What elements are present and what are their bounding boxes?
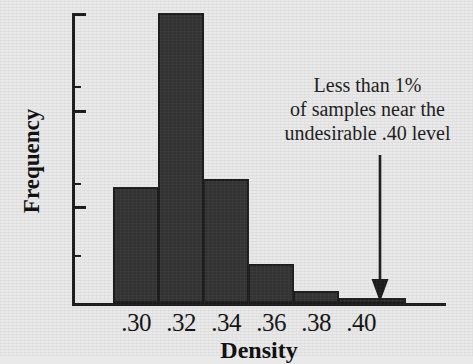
y-tick-minor-37: [75, 183, 81, 185]
y-tick-50: [75, 110, 86, 113]
x-axis-title: Density: [72, 337, 446, 364]
bar-bin-2: [158, 13, 204, 303]
bar-bin-4: [248, 264, 294, 303]
y-tick-minor-12: [75, 255, 81, 257]
annotation-line-1: Less than 1%: [262, 73, 473, 97]
y-axis-line: [72, 13, 75, 306]
y-tick-25: [75, 206, 86, 209]
y-tick-minor-62: [75, 86, 81, 88]
bar-bin-5: [293, 291, 339, 303]
annotation-line-3: undesirable .40 level: [262, 121, 473, 145]
y-tick-75: [75, 13, 86, 16]
bar-bin-1: [113, 187, 159, 303]
y-axis-title: Frequency: [19, 76, 45, 246]
annotation-line-2: of samples near the: [262, 97, 473, 121]
x-tick-label-40: .40: [333, 310, 389, 335]
annotation-callout: Less than 1% of samples near the undesir…: [262, 73, 473, 145]
down-arrow-icon: [364, 155, 396, 305]
bar-bin-3: [203, 179, 249, 303]
